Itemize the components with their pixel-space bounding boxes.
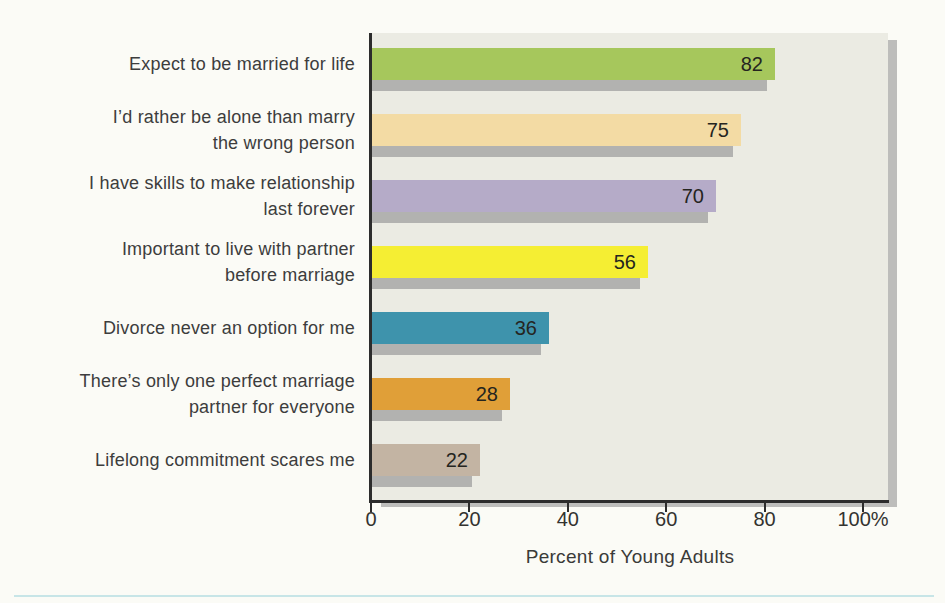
x-tick-label: 100% xyxy=(818,508,908,531)
bar-shadow xyxy=(372,344,541,355)
y-axis-line xyxy=(369,33,372,503)
bar-value-label: 36 xyxy=(515,312,537,344)
bar-shadow xyxy=(372,212,708,223)
x-axis-title: Percent of Young Adults xyxy=(372,546,888,568)
x-axis-line xyxy=(369,500,889,503)
bar-value-label: 75 xyxy=(707,114,729,146)
x-tick-label: 60 xyxy=(621,508,711,531)
bar-chart-figure: 82757056362822 Expect to be married for … xyxy=(0,0,945,603)
bar-value-label: 82 xyxy=(741,48,763,80)
x-tick-label: 20 xyxy=(424,508,514,531)
category-label: Lifelong commitment scares me xyxy=(55,447,355,473)
bar-7: 22 xyxy=(372,444,480,476)
bar-shadow xyxy=(372,476,472,487)
bar-4: 56 xyxy=(372,246,648,278)
bar-value-label: 28 xyxy=(476,378,498,410)
category-label: Expect to be married for life xyxy=(55,51,355,77)
category-label: Important to live with partnerbefore mar… xyxy=(55,236,355,288)
x-tick-label: 0 xyxy=(326,508,416,531)
plot-area: 82757056362822 xyxy=(372,33,888,500)
bar-shadow xyxy=(372,80,767,91)
bar-value-label: 70 xyxy=(682,180,704,212)
bar-value-label: 56 xyxy=(614,246,636,278)
bar-value-label: 22 xyxy=(446,444,468,476)
category-label: I have skills to make relationshiplast f… xyxy=(55,170,355,222)
bottom-rule xyxy=(14,595,934,597)
category-label: There’s only one perfect marriagepartner… xyxy=(55,368,355,420)
bar-5: 36 xyxy=(372,312,549,344)
bar-1: 82 xyxy=(372,48,775,80)
bar-shadow xyxy=(372,410,502,421)
bar-3: 70 xyxy=(372,180,716,212)
bar-2: 75 xyxy=(372,114,741,146)
bar-shadow xyxy=(372,278,640,289)
bar-shadow xyxy=(372,146,733,157)
x-tick-label: 40 xyxy=(523,508,613,531)
bar-6: 28 xyxy=(372,378,510,410)
category-label: I’d rather be alone than marrythe wrong … xyxy=(55,104,355,156)
category-label: Divorce never an option for me xyxy=(55,315,355,341)
x-tick-label: 80 xyxy=(720,508,810,531)
